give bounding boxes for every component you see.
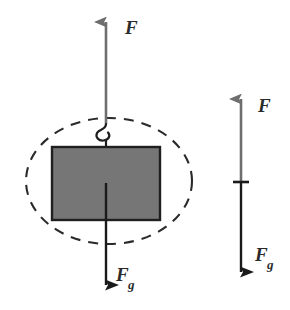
tension-force-label: F [124,17,138,38]
physics-figure: F F g F F g [0,0,290,310]
figure-canvas: F F g F F g [0,0,290,310]
suspension-hook-icon [96,124,109,141]
gravity-force-label: F g [115,264,135,292]
gravity-force-label-subscript: g [127,277,135,292]
fbd-tension-force-label: F [257,95,271,116]
fbd-gravity-force-label-subscript: g [266,257,274,272]
situation-sketch-panel: F F g [26,17,192,292]
vector-diagram-panel: F F g [233,95,274,272]
fbd-gravity-force-label-main: F [254,244,268,265]
fbd-gravity-force-label: F g [254,244,274,272]
gravity-force-label-main: F [115,264,129,285]
